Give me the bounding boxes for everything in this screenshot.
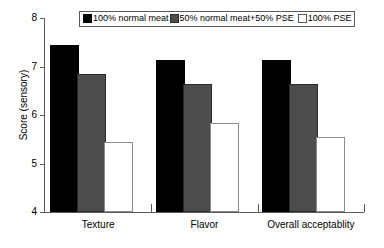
bar-texture-series-0 <box>50 45 79 212</box>
x-tick-label-flavor: Flavor <box>151 219 257 230</box>
bar-texture-series-2 <box>104 142 133 212</box>
bar-flavor-series-1 <box>183 84 212 212</box>
y-tick-label-7: 7 <box>17 62 37 72</box>
plot-area <box>45 18 364 212</box>
bar-flavor-series-0 <box>156 60 185 212</box>
group-separator-2 <box>258 204 259 212</box>
y-tick-label-4: 4 <box>17 207 37 217</box>
x-tick-label-texture: Texture <box>45 219 151 230</box>
sensory-score-bar-chart: 100% normal meat 50% normal meat+50% PSE… <box>0 0 384 248</box>
y-tick-4 <box>40 212 45 213</box>
bar-texture-series-1 <box>77 74 106 212</box>
y-tick-label-5: 5 <box>17 159 37 169</box>
group-separator-end <box>364 204 365 212</box>
group-separator-1 <box>151 204 152 212</box>
x-tick-label-overall-acceptablity: Overall acceptablity <box>258 219 364 230</box>
y-tick-label-6: 6 <box>17 110 37 120</box>
y-tick-label-8: 8 <box>17 13 37 23</box>
bar-flavor-series-2 <box>210 123 239 212</box>
x-axis-line <box>44 212 364 213</box>
bar-overall-acceptablity-series-0 <box>262 60 291 212</box>
bar-overall-acceptablity-series-2 <box>316 137 345 212</box>
bar-overall-acceptablity-series-1 <box>289 84 318 212</box>
